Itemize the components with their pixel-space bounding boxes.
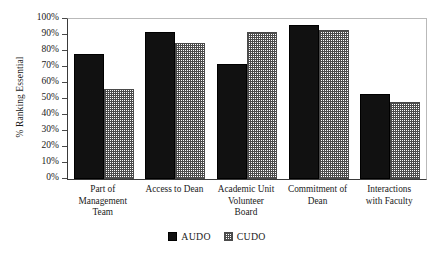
y-axis-tick-label: 20% xyxy=(42,141,59,151)
x-axis-label-line: Team xyxy=(68,207,138,219)
bar-cudo[interactable] xyxy=(175,43,205,179)
bar-audo[interactable] xyxy=(289,25,319,179)
x-axis-label-line: Dean xyxy=(283,196,353,208)
legend-item[interactable]: CUDO xyxy=(224,231,266,242)
y-axis-tick-label: 10% xyxy=(42,157,59,167)
x-axis-label: Academic UnitVolunteerBoard xyxy=(210,184,282,228)
bar-audo[interactable] xyxy=(74,54,104,179)
y-axis-tick-label: 80% xyxy=(42,45,59,55)
bar-cudo[interactable] xyxy=(247,32,277,179)
bars-layer xyxy=(68,19,426,179)
x-axis-label-line: Board xyxy=(211,207,281,219)
y-axis-tick-label: 40% xyxy=(42,109,59,119)
y-axis-tick-label: 0% xyxy=(46,173,59,183)
bar-group xyxy=(283,19,355,179)
y-axis-tick-label: 50% xyxy=(42,93,59,103)
y-axis-tick-label: 70% xyxy=(42,61,59,71)
x-axis-label-line: Interactions xyxy=(354,184,424,196)
bar-audo[interactable] xyxy=(360,94,390,179)
legend-swatch-icon xyxy=(168,232,177,241)
x-axis-label: Commitment ofDean xyxy=(282,184,354,228)
y-axis-tick-label: 60% xyxy=(42,77,59,87)
legend-item[interactable]: AUDO xyxy=(168,231,211,242)
y-axis-tick-label: 90% xyxy=(42,29,59,39)
x-axis-label-line: Commitment of xyxy=(283,184,353,196)
bar-group xyxy=(211,19,283,179)
bar-audo[interactable] xyxy=(145,32,175,179)
y-axis-ticks: 100%90%80%70%60%50%40%30%20%10%0% xyxy=(0,0,67,179)
plot-area xyxy=(67,18,427,180)
bar-group xyxy=(140,19,212,179)
legend-swatch-icon xyxy=(224,232,233,241)
bar-cudo[interactable] xyxy=(390,102,420,179)
x-axis-label: Interactionswith Faculty xyxy=(353,184,425,228)
x-axis-label-line: Access to Dean xyxy=(140,184,210,196)
y-axis-tick-label: 100% xyxy=(37,13,59,23)
chart-legend: AUDOCUDO xyxy=(0,231,434,242)
x-axis-label: Access to Dean xyxy=(139,184,211,228)
x-axis-label-line: Volunteer xyxy=(211,196,281,208)
x-axis-label-line: Academic Unit xyxy=(211,184,281,196)
y-axis-tick-label: 30% xyxy=(42,125,59,135)
bar-audo[interactable] xyxy=(217,64,247,179)
x-axis-label-line: Management xyxy=(68,196,138,208)
bar-group xyxy=(68,19,140,179)
bar-cudo[interactable] xyxy=(104,89,134,179)
legend-label: AUDO xyxy=(181,231,211,242)
bar-group xyxy=(354,19,426,179)
legend-label: CUDO xyxy=(237,231,266,242)
x-axis-category-labels: Part ofManagementTeamAccess to DeanAcade… xyxy=(67,184,425,228)
bar-chart: % Ranking Essential 100%90%80%70%60%50%4… xyxy=(0,0,434,255)
x-axis-label: Part ofManagementTeam xyxy=(67,184,139,228)
bar-cudo[interactable] xyxy=(319,30,349,179)
x-axis-label-line: Part of xyxy=(68,184,138,196)
x-axis-label-line: with Faculty xyxy=(354,196,424,208)
